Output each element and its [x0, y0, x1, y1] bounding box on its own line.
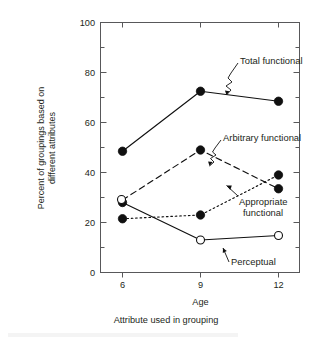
- series-total-functional: [118, 87, 282, 155]
- annotation-label-perceptual: Perceptual: [231, 256, 276, 267]
- annotation-total-functional: Total functional: [225, 55, 303, 95]
- annotation-perceptual: Perceptual: [223, 248, 276, 267]
- annotation-arbitrary-functional: Arbitrary functional: [208, 132, 301, 166]
- x-tick-label-12: 12: [273, 280, 283, 290]
- y-tick-label-40: 40: [85, 168, 95, 178]
- data-point-appropriate-functional-age12: [274, 171, 282, 179]
- series-arbitrary-functional: [123, 146, 283, 200]
- y-tick-label-80: 80: [85, 68, 95, 78]
- data-point-appropriate-functional-age6: [118, 215, 126, 223]
- data-point-perceptual-age6: [118, 196, 126, 204]
- x-axis-top-ticks: [123, 23, 279, 28]
- data-point-total-functional-age9: [196, 87, 204, 95]
- data-point-total-functional-age12: [274, 97, 282, 105]
- bottom-cropped-caption: [8, 333, 238, 337]
- y-axis-title-line2: different attributes: [47, 112, 57, 184]
- chart-plot: 100 80 60 40 20 0 6 9 12 Percent of grou…: [0, 0, 332, 337]
- annotation-label-appropriate-line1: Appropriate: [239, 196, 287, 207]
- x-tick-label-9: 9: [198, 280, 203, 290]
- x-axis-ticks: [123, 273, 279, 278]
- y-tick-label-0: 0: [90, 268, 95, 278]
- data-point-perceptual-age12: [275, 232, 283, 240]
- total-functional-leader-line: [226, 63, 238, 95]
- annotation-label-total-functional: Total functional: [240, 55, 303, 66]
- figure-caption: Attribute used in grouping: [114, 315, 219, 325]
- data-point-total-functional-age6: [118, 147, 126, 155]
- y-tick-label-100: 100: [80, 18, 95, 28]
- y-axis-minor-ticks: [101, 48, 105, 248]
- series-line-arbitrary-functional: [123, 150, 279, 200]
- y-tick-label-60: 60: [85, 118, 95, 128]
- annotation-label-appropriate-line2: functional: [243, 207, 283, 218]
- data-point-appropriate-functional-age9: [196, 211, 204, 219]
- y-axis-title: Percent of groupings based on different …: [36, 87, 57, 210]
- y-tick-label-20: 20: [85, 218, 95, 228]
- figure-container: 100 80 60 40 20 0 6 9 12 Percent of grou…: [0, 0, 332, 337]
- data-point-arbitrary-functional-age12: [274, 185, 282, 193]
- x-axis-title: Age: [192, 297, 208, 307]
- data-point-perceptual-age9: [197, 236, 205, 244]
- data-point-arbitrary-functional-age9: [196, 146, 204, 154]
- annotation-label-arbitrary-functional: Arbitrary functional: [223, 132, 301, 143]
- x-tick-label-6: 6: [120, 280, 125, 290]
- y-axis-title-line1: Percent of groupings based on: [36, 87, 46, 210]
